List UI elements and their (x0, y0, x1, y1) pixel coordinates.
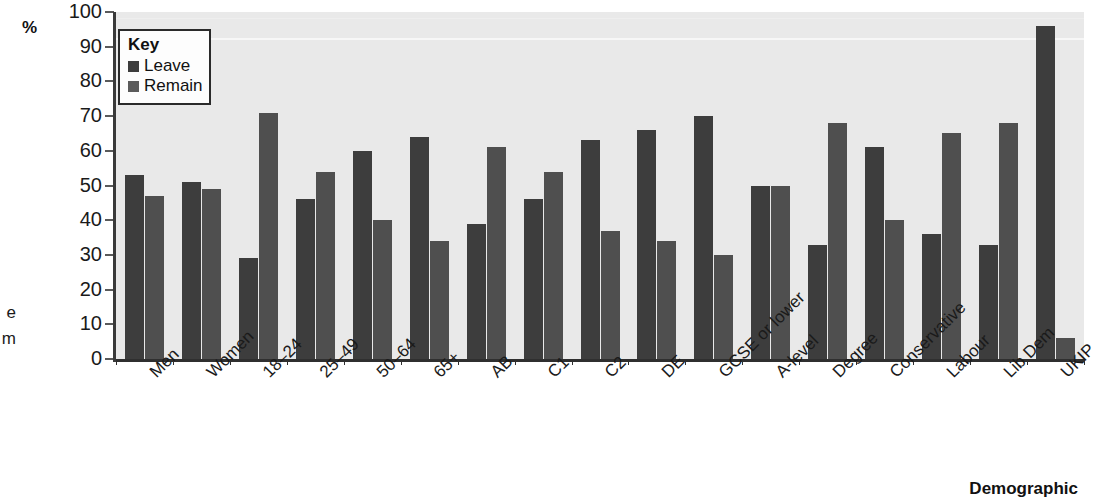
bar-leave-10 (637, 130, 656, 359)
y-tick-label-50: 50 (56, 175, 102, 195)
y-tick-label-0: 0 (56, 348, 102, 368)
bar-leave-2 (182, 182, 201, 359)
bar-remain-13 (828, 123, 847, 359)
bar-remain-14 (885, 220, 904, 359)
bar-remain-1 (145, 196, 164, 359)
y-tick-label-80: 80 (56, 70, 102, 90)
y-tick-label-90: 90 (56, 36, 102, 56)
bar-remain-8 (544, 172, 563, 359)
scan-artifact-line (116, 38, 1084, 40)
legend-label-remain: Remain (144, 76, 203, 96)
bar-leave-17 (1036, 26, 1055, 359)
y-tick-label-10: 10 (56, 313, 102, 333)
cropped-caption-line-1: e (0, 300, 16, 326)
x-axis-line (113, 359, 1084, 362)
bar-remain-3 (259, 113, 278, 359)
bar-leave-11 (694, 116, 713, 359)
bar-remain-6 (430, 241, 449, 359)
x-axis-title: Demographic (969, 479, 1078, 499)
y-tick-label-20: 20 (56, 279, 102, 299)
legend-item-remain: Remain (128, 76, 202, 96)
bar-leave-6 (410, 137, 429, 359)
legend: Key Leave Remain (118, 29, 211, 105)
y-tick-label-100: 100 (56, 1, 102, 21)
legend-title: Key (128, 35, 202, 55)
cropped-caption-line-2: m (0, 326, 16, 352)
plot-area (116, 12, 1084, 359)
x-tick-mark-1 (116, 359, 117, 365)
bar-leave-8 (524, 199, 543, 359)
bar-remain-10 (657, 241, 676, 359)
scan-artifact-line-secondary (116, 18, 1084, 19)
bar-remain-2 (202, 189, 221, 359)
y-tick-label-60: 60 (56, 140, 102, 160)
bar-leave-7 (467, 224, 486, 359)
legend-item-leave: Leave (128, 56, 202, 76)
y-tick-label-30: 30 (56, 244, 102, 264)
bar-leave-1 (125, 175, 144, 359)
legend-label-leave: Leave (144, 56, 190, 76)
bar-remain-5 (373, 220, 392, 359)
y-axis-line (113, 12, 116, 362)
bar-remain-11 (714, 255, 733, 359)
legend-swatch-remain-icon (128, 81, 139, 92)
bar-remain-4 (316, 172, 335, 359)
bar-leave-9 (581, 140, 600, 359)
y-tick-label-40: 40 (56, 209, 102, 229)
bar-leave-4 (296, 199, 315, 359)
bar-remain-7 (487, 147, 506, 359)
cropped-left-caption: e m (0, 300, 16, 353)
bar-leave-5 (353, 151, 372, 359)
bar-remain-16 (999, 123, 1018, 359)
bar-remain-9 (601, 231, 620, 359)
y-axis-unit-label: % (22, 18, 37, 38)
legend-swatch-leave-icon (128, 61, 139, 72)
y-tick-label-70: 70 (56, 105, 102, 125)
